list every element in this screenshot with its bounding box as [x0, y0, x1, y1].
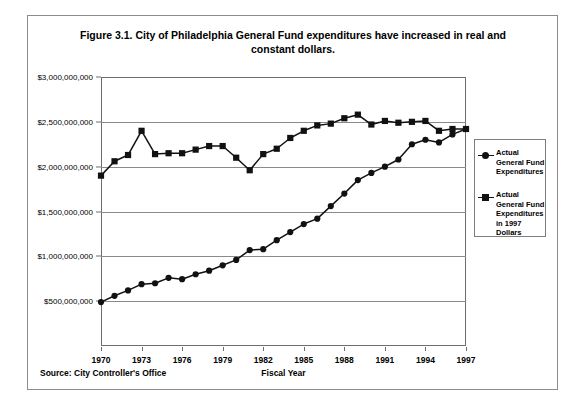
data-point: [341, 115, 347, 121]
x-axis-tick-labels: 1970197319761979198219851988199119941997: [101, 347, 466, 369]
data-point: [260, 246, 266, 252]
x-tick-label: 1976: [173, 355, 192, 365]
data-point: [138, 128, 144, 134]
data-point: [314, 122, 320, 128]
data-point: [152, 151, 158, 157]
data-point: [111, 293, 117, 299]
x-tick-label: 1994: [416, 355, 435, 365]
data-point: [341, 190, 347, 196]
data-point: [449, 126, 455, 132]
x-tick-mark: [182, 347, 183, 351]
data-point: [206, 143, 212, 149]
data-point: [193, 147, 199, 153]
data-point: [179, 150, 185, 156]
data-point: [138, 281, 144, 287]
data-point: [152, 280, 158, 286]
legend-label: Actual General Fund Expenditures in 1997…: [496, 190, 548, 238]
x-tick-label: 1988: [335, 355, 354, 365]
data-point: [274, 146, 280, 152]
data-point: [355, 112, 361, 118]
legend-label: Actual General Fund Expenditures: [496, 148, 548, 177]
data-point: [368, 121, 374, 127]
data-point: [395, 120, 401, 126]
y-tick-label: $3,000,000,000: [0, 73, 93, 82]
data-point: [355, 177, 361, 183]
data-point: [382, 118, 388, 124]
data-point: [436, 139, 442, 145]
data-point: [287, 135, 293, 141]
data-point: [382, 164, 388, 170]
data-point: [98, 299, 104, 305]
data-point: [274, 237, 280, 243]
x-tick-label: 1997: [457, 355, 476, 365]
data-point: [111, 158, 117, 164]
chart-title: Figure 3.1. City of Philadelphia General…: [68, 28, 518, 56]
y-tick-label: $1,500,000,000: [0, 207, 93, 216]
data-point: [395, 156, 401, 162]
data-point: [422, 118, 428, 124]
legend-marker-square-icon: [478, 193, 494, 201]
data-point: [301, 128, 307, 134]
x-tick-label: 1991: [375, 355, 394, 365]
data-point: [409, 119, 415, 125]
data-point: [368, 170, 374, 176]
x-tick-mark: [385, 347, 386, 351]
x-tick-label: 1979: [213, 355, 232, 365]
x-tick-label: 1985: [294, 355, 313, 365]
x-tick-label: 1970: [92, 355, 111, 365]
x-tick-mark: [263, 347, 264, 351]
y-tick-label: $2,500,000,000: [0, 117, 93, 126]
data-point: [233, 155, 239, 161]
y-axis-tick-labels: $3,000,000,000$2,500,000,000$2,000,000,0…: [0, 77, 101, 346]
x-tick-mark: [142, 347, 143, 351]
data-point: [247, 247, 253, 253]
data-point: [125, 152, 131, 158]
y-tick-label: $2,000,000,000: [0, 162, 93, 171]
figure-frame: Figure 3.1. City of Philadelphia General…: [27, 15, 558, 390]
data-point: [409, 141, 415, 147]
x-tick-mark: [425, 347, 426, 351]
data-point: [233, 257, 239, 263]
x-tick-label: 1982: [254, 355, 273, 365]
data-point: [463, 126, 469, 132]
data-point: [301, 221, 307, 227]
x-tick-mark: [344, 347, 345, 351]
data-point: [436, 128, 442, 134]
data-point: [98, 173, 104, 179]
data-point: [179, 276, 185, 282]
data-series-layer: [101, 77, 466, 346]
data-point: [328, 121, 334, 127]
chart-legend: Actual General Fund ExpendituresActual G…: [474, 139, 546, 237]
y-tick-label: $500,000,000: [0, 297, 93, 306]
y-tick-label: $1,000,000,000: [0, 252, 93, 261]
plot-area: [101, 77, 466, 346]
x-tick-mark: [101, 347, 102, 351]
data-point: [328, 203, 334, 209]
data-point: [220, 143, 226, 149]
data-point: [165, 275, 171, 281]
data-point: [125, 287, 131, 293]
legend-marker-circle-icon: [478, 151, 494, 159]
data-point: [165, 150, 171, 156]
data-point: [314, 216, 320, 222]
data-point: [422, 137, 428, 143]
data-point: [287, 229, 293, 235]
data-point: [220, 262, 226, 268]
x-tick-mark: [466, 347, 467, 351]
data-point: [247, 167, 253, 173]
x-tick-mark: [304, 347, 305, 351]
x-tick-label: 1973: [132, 355, 151, 365]
data-point: [193, 271, 199, 277]
source-note: Source: City Controller's Office: [40, 368, 166, 378]
data-point: [260, 151, 266, 157]
data-point: [206, 268, 212, 274]
x-tick-mark: [223, 347, 224, 351]
data-point: [449, 131, 455, 137]
